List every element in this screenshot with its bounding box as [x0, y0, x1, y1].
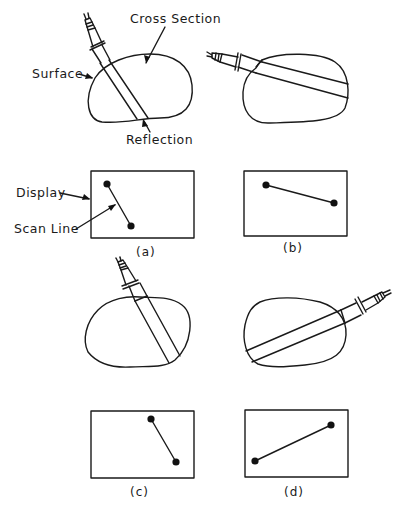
probe-icon: [116, 257, 180, 363]
scan-line: [151, 419, 176, 462]
scan-line-start-dot: [262, 181, 269, 188]
display-c: (c): [91, 411, 194, 499]
panel-c-cross-section: [85, 257, 190, 367]
display-screen: [245, 410, 348, 477]
scan-line-end-dot: [327, 421, 334, 428]
scan-line-start-dot: [251, 457, 258, 464]
panel-a-cross-section: Cross Section Surface Reflection: [32, 11, 221, 147]
display-screen: [91, 411, 194, 478]
caption-d: (d): [284, 485, 304, 499]
display-a: Display Scan Line (a): [14, 171, 194, 259]
scan-line-end-dot: [172, 458, 179, 465]
cross-section-label: Cross Section: [130, 11, 221, 26]
probe-icon: [246, 290, 391, 362]
scan-line-start-dot: [103, 180, 110, 187]
panel-d-cross-section: [244, 290, 391, 367]
panel-b-cross-section: [207, 52, 348, 123]
caption-c: (c): [130, 485, 149, 499]
scan-line-end-dot: [330, 199, 337, 206]
scan-line-end-dot: [127, 222, 134, 229]
display-b: (b): [244, 171, 347, 255]
cross-section-outline: [88, 54, 192, 122]
scan-line-label: Scan Line: [14, 221, 79, 236]
scan-line: [107, 184, 131, 226]
caption-a: (a): [136, 245, 156, 259]
surface-label: Surface: [32, 66, 83, 81]
scan-line: [255, 425, 331, 461]
scan-line: [266, 185, 334, 203]
scan-line-start-dot: [147, 415, 154, 422]
reflection-label: Reflection: [126, 132, 193, 147]
ultrasound-scan-diagram: Cross Section Surface Reflection: [0, 0, 403, 511]
cross-section-outline: [85, 297, 190, 367]
probe-icon: [207, 52, 348, 98]
display-label: Display: [16, 185, 66, 200]
cross-section-outline: [244, 298, 346, 367]
display-d: (d): [245, 410, 348, 499]
scan-line-arrow: [76, 205, 115, 229]
probe-icon: [84, 13, 148, 119]
caption-b: (b): [283, 241, 303, 255]
